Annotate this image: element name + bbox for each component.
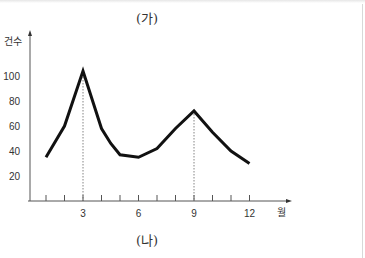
annotations xyxy=(83,71,194,201)
x-axis-label: 월 xyxy=(277,207,286,218)
line-chart: 3691220406080100건수월 xyxy=(0,0,365,258)
x-axis-arrow-icon xyxy=(286,199,292,203)
y-tick-label: 20 xyxy=(9,171,21,182)
x-tick-label: 3 xyxy=(80,208,86,219)
y-axis-label: 건수 xyxy=(4,36,22,47)
x-tick-label: 12 xyxy=(244,208,256,219)
y-tick-label: 40 xyxy=(9,146,21,157)
y-tick-label: 60 xyxy=(9,121,21,132)
data-series xyxy=(46,71,250,164)
data-line xyxy=(46,71,250,164)
y-tick-label: 100 xyxy=(3,71,20,82)
y-tick-label: 80 xyxy=(9,96,21,107)
axis-labels: 3691220406080100건수월 xyxy=(3,36,286,219)
x-tick-label: 6 xyxy=(136,208,142,219)
y-axis-arrow-icon xyxy=(28,30,32,36)
x-tick-label: 9 xyxy=(191,208,197,219)
